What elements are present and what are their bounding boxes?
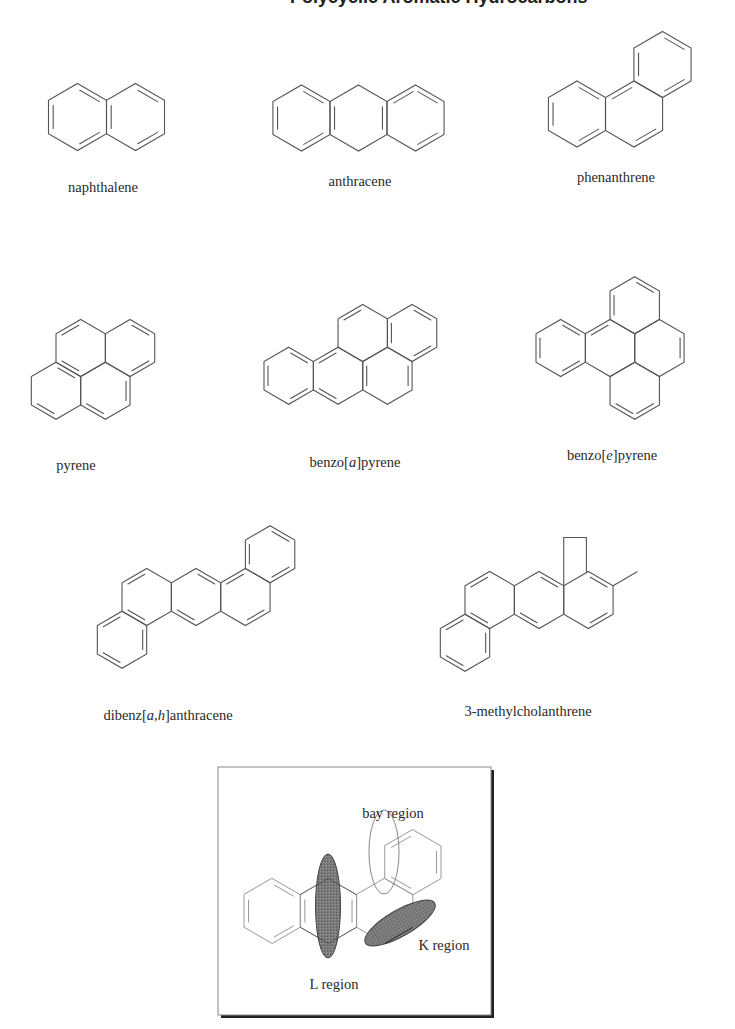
double-bond (394, 92, 413, 103)
double-bond (128, 574, 145, 584)
double-bond (579, 129, 598, 140)
ring (440, 614, 489, 671)
double-bond (471, 577, 488, 587)
ring (536, 320, 585, 377)
double-bond (304, 133, 323, 144)
double-bond (414, 310, 431, 320)
ring (610, 362, 659, 419)
double-bond (563, 361, 580, 371)
ring (31, 362, 80, 419)
phenanthrene-label: phenanthrene (577, 169, 655, 185)
double-bond (247, 610, 264, 620)
anthracene-label: anthracene (329, 173, 392, 189)
double-bond (62, 361, 79, 371)
double-bond (58, 368, 75, 378)
l-region-label: L region (310, 976, 360, 992)
double-bond (103, 653, 120, 663)
double-bond (665, 80, 684, 91)
double-bond (418, 133, 437, 144)
ring (635, 320, 684, 377)
double-bond (319, 389, 336, 399)
3-methylcholanthrene-label: 3-methylcholanthrene (464, 703, 591, 719)
dibenz-ah-anthracene-label: dibenz[a,h]anthracene (103, 707, 232, 723)
ring (548, 81, 605, 147)
double-bond (138, 132, 158, 143)
benzo-a-pyrene-label: benzo[a]pyrene (310, 454, 401, 470)
ring (514, 572, 563, 629)
double-bond (616, 404, 633, 414)
ring (605, 81, 662, 147)
double-bond (637, 404, 654, 414)
ring (363, 347, 412, 404)
ring (387, 85, 444, 151)
double-bond (177, 610, 194, 620)
double-bond (138, 90, 158, 101)
double-bond (520, 613, 537, 623)
ring (97, 611, 146, 668)
double-bond (636, 129, 655, 140)
pah-figure: Polycyclic Aromatic Hydrocarbons naphtha… (0, 0, 735, 1029)
double-bond (272, 531, 289, 541)
double-bond (612, 88, 631, 99)
3-methylcholanthrene-structure (440, 538, 637, 672)
five-membered-ring (564, 538, 587, 586)
double-bond (665, 38, 684, 49)
l-region-ellipse (316, 854, 341, 958)
double-bond (563, 325, 580, 335)
double-bond (227, 574, 244, 584)
ring (634, 32, 691, 98)
anthracene-structure (273, 85, 444, 151)
double-bond (272, 567, 289, 577)
ring (122, 569, 171, 626)
double-bond (304, 92, 323, 103)
page-header-fragment: Polycyclic Aromatic Hydrocarbons (290, 0, 587, 7)
pyrene-structure (31, 320, 154, 420)
double-bond (291, 389, 308, 399)
ring (387, 305, 436, 362)
ring (221, 569, 270, 626)
ring (610, 277, 659, 334)
double-bond (198, 574, 215, 584)
double-bond (446, 620, 463, 630)
ring (106, 84, 164, 151)
double-bond (471, 613, 488, 623)
double-bond (637, 282, 654, 292)
ring (245, 526, 294, 583)
double-bond (291, 353, 308, 363)
double-bond (132, 325, 149, 335)
double-bond (344, 310, 361, 320)
benzo-a-pyrene-structure (264, 305, 437, 405)
benzo-e-pyrene-structure (536, 277, 684, 420)
k-region-label: K region (418, 937, 470, 953)
ring (48, 84, 106, 151)
double-bond (590, 613, 607, 623)
ring (330, 85, 387, 151)
ring (171, 569, 220, 626)
double-bond (446, 656, 463, 666)
double-bond (418, 92, 437, 103)
naphthalene-label: naphthalene (68, 179, 138, 195)
header-text: Polycyclic Aromatic Hydrocarbons (290, 0, 587, 7)
double-bond (319, 353, 336, 363)
double-bond (128, 610, 145, 620)
ring (585, 320, 634, 377)
double-bond (579, 88, 598, 99)
ring (313, 347, 362, 404)
double-bond (80, 90, 100, 101)
ring (81, 362, 130, 419)
ring (264, 347, 313, 404)
double-bond (541, 577, 558, 587)
region-diagram-inset: bay region K region L region (218, 767, 494, 1018)
double-bond (62, 325, 79, 335)
ring (465, 572, 514, 629)
bay-region-label: bay region (362, 805, 424, 821)
methyl-group (613, 572, 637, 586)
ring (56, 320, 105, 377)
phenanthrene-structure (548, 32, 691, 148)
double-bond (591, 325, 608, 335)
dibenz-ah-anthracene-structure (97, 526, 294, 669)
ring (564, 572, 613, 629)
double-bond (80, 132, 100, 143)
benzo-e-pyrene-label: benzo[e]pyrene (567, 447, 657, 463)
double-bond (37, 404, 54, 414)
